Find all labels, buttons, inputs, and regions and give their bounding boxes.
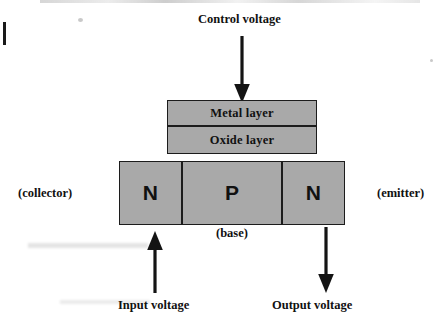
scan-artifact-speck [78, 18, 83, 22]
collector-annotation: (collector) [18, 186, 72, 201]
emitter-annotation: (emitter) [377, 186, 424, 201]
control-voltage-arrow [228, 34, 256, 104]
output-voltage-arrow [313, 226, 339, 294]
scan-artifact-speck [430, 59, 433, 62]
input-voltage-label: Input voltage [118, 298, 189, 313]
oxide-layer-block: Oxide layer [167, 126, 317, 154]
emitter-region-label: N [306, 181, 321, 205]
control-voltage-label: Control voltage [198, 12, 281, 27]
emitter-region-block: N [282, 161, 345, 225]
output-voltage-label: Output voltage [272, 298, 352, 313]
scan-artifact-band [28, 243, 148, 248]
base-region-block: P [182, 161, 282, 225]
metal-layer-label: Metal layer [210, 106, 274, 121]
metal-layer-block: Metal layer [167, 100, 317, 126]
scan-artifact-left-bar [3, 22, 6, 45]
oxide-layer-label: Oxide layer [210, 133, 274, 148]
base-annotation: (base) [216, 226, 248, 241]
input-voltage-arrow [142, 230, 168, 295]
collector-region-label: N [143, 181, 158, 205]
base-region-label: P [225, 181, 239, 205]
scan-artifact-top-line [40, 0, 420, 3]
diagram-canvas: Control voltage Metal layer Oxide layer … [0, 0, 441, 330]
collector-region-block: N [119, 161, 182, 225]
